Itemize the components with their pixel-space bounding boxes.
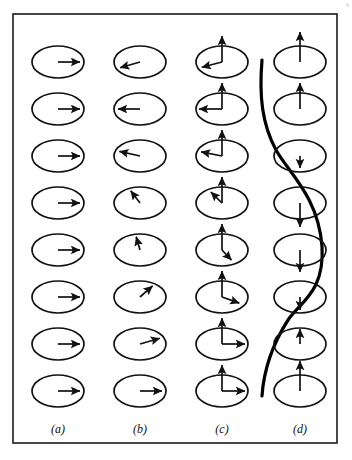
spin-site bbox=[274, 281, 326, 313]
spin-site bbox=[274, 32, 326, 78]
spin-site bbox=[274, 83, 326, 125]
spin-site bbox=[114, 46, 166, 78]
spin-site bbox=[196, 271, 248, 313]
spin-site bbox=[196, 83, 248, 125]
spin-site bbox=[114, 187, 166, 219]
spin-site bbox=[114, 234, 166, 266]
spin-site bbox=[32, 187, 84, 219]
panel-b bbox=[114, 46, 166, 407]
spin-site bbox=[32, 328, 84, 360]
spin-site bbox=[32, 234, 84, 266]
spin-site bbox=[196, 36, 248, 78]
spin-site bbox=[196, 224, 248, 266]
in-plane-spin-arrow bbox=[131, 191, 140, 203]
spin-site bbox=[114, 375, 166, 407]
spin-configuration-figure: (a)(b)(c)(d) bbox=[0, 0, 352, 460]
spin-site bbox=[32, 140, 84, 172]
spin-site bbox=[196, 365, 248, 407]
spin-site bbox=[274, 361, 326, 407]
spin-site bbox=[32, 281, 84, 313]
in-plane-spin-arrow bbox=[136, 237, 140, 250]
panel-caption-b: (b) bbox=[133, 422, 147, 436]
spin-site bbox=[114, 93, 166, 125]
spin-site bbox=[114, 328, 166, 360]
spin-site bbox=[274, 234, 326, 272]
caption-group: (a)(b)(c)(d) bbox=[51, 422, 307, 436]
in-plane-spin-arrow bbox=[140, 286, 153, 297]
panel-c bbox=[196, 36, 248, 407]
in-plane-spin-arrow bbox=[222, 297, 239, 303]
in-plane-spin-arrow bbox=[222, 250, 232, 260]
spin-density-envelope-curve bbox=[261, 60, 322, 396]
spin-site bbox=[32, 375, 84, 407]
in-plane-spin-arrow bbox=[202, 62, 222, 67]
panel-caption-c: (c) bbox=[215, 422, 228, 436]
panel-d bbox=[261, 32, 326, 407]
spin-site bbox=[274, 140, 326, 172]
panel-caption-d: (d) bbox=[293, 422, 307, 436]
spin-site bbox=[196, 318, 248, 360]
spin-site bbox=[32, 93, 84, 125]
in-plane-spin-arrow bbox=[211, 192, 222, 203]
spin-site bbox=[114, 140, 166, 172]
spin-site bbox=[274, 328, 326, 360]
in-plane-spin-arrow bbox=[120, 62, 140, 68]
panel-group bbox=[32, 32, 326, 407]
panel-caption-a: (a) bbox=[51, 422, 65, 436]
spin-site bbox=[196, 177, 248, 219]
spin-site bbox=[32, 46, 84, 78]
figure-root: 9 (a)(b)(c)(d) bbox=[0, 0, 352, 460]
panel-a bbox=[32, 46, 84, 407]
in-plane-spin-arrow bbox=[140, 338, 160, 344]
spin-site bbox=[114, 281, 166, 313]
in-plane-spin-arrow bbox=[201, 152, 222, 156]
spin-site bbox=[196, 130, 248, 172]
in-plane-spin-arrow bbox=[119, 151, 140, 156]
